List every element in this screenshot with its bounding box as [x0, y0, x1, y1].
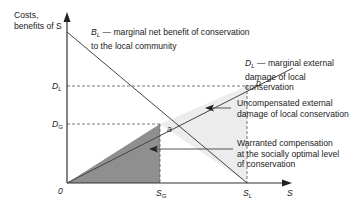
- uncompensated-annotation: Uncompensated external damage of local c…: [237, 98, 349, 119]
- benefit-curve-label: BL — marginal net benefit of conservatio…: [91, 27, 250, 51]
- tick-sg-sub: G: [162, 193, 167, 199]
- benefit-curve-label-line1: BL — marginal net benefit of conservatio…: [91, 27, 250, 41]
- uncompensated-line1: Uncompensated external: [237, 98, 349, 109]
- tick-dg: DG: [52, 119, 63, 133]
- uncompensated-damage-area: [160, 86, 247, 183]
- benefit-text1: — marginal net benefit of conservation: [100, 27, 250, 37]
- y-axis-label-line2: benefits of S: [14, 21, 62, 32]
- uncompensated-line2: damage of local conservation: [237, 109, 349, 120]
- x-axis-arrow-icon: [282, 180, 292, 187]
- damage-text1: — marginal external: [255, 58, 334, 68]
- origin-label: 0: [58, 186, 63, 197]
- tick-dl-sub: L: [58, 86, 61, 92]
- y-axis-arrow-icon: [64, 12, 71, 22]
- damage-curve-label-line1: DL — marginal external: [245, 58, 334, 72]
- tick-sl-sub: L: [249, 193, 252, 199]
- warranted-line3: of conservation: [237, 159, 339, 170]
- damage-curve-label-line3: conservation: [245, 82, 334, 93]
- tick-dl: DL: [52, 81, 62, 95]
- warranted-line1: Warranted compensation: [237, 138, 339, 149]
- damage-curve-label-line2: damage of local: [245, 72, 334, 83]
- warranted-compensation-area: [67, 124, 160, 183]
- x-axis-label: S: [287, 188, 293, 199]
- benefit-curve-label-line2: to the local community: [91, 41, 250, 52]
- tick-sg: SG: [156, 188, 166, 202]
- warranted-line2: at the socially optimal level: [237, 149, 339, 160]
- tick-dg-sub: G: [58, 124, 63, 130]
- tick-sl: SL: [243, 188, 252, 202]
- y-axis-label-text: benefits of S: [14, 21, 62, 31]
- warranted-annotation: Warranted compensation at the socially o…: [237, 138, 339, 170]
- y-axis-label: Costs, benefits of S: [14, 10, 62, 31]
- y-axis-label-line1: Costs,: [14, 10, 62, 21]
- point-a-label: a: [167, 124, 172, 135]
- damage-curve-label: DL — marginal external damage of local c…: [245, 58, 334, 93]
